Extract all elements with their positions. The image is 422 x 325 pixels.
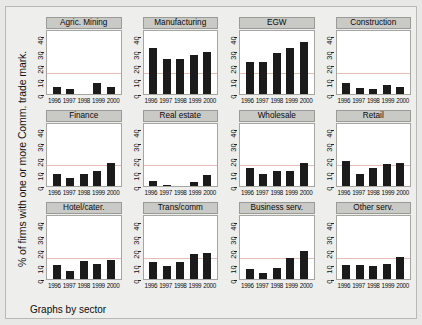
x-tick-label: 1996 [145,96,158,105]
panel-title: Manufacturing [143,17,219,29]
y-tick-label: 10 [230,172,237,180]
x-tick-label: 1997 [352,281,365,290]
bar [176,262,184,279]
bar [53,265,61,279]
bar [149,181,157,187]
plot-area [46,123,122,188]
x-tick-label: 1998 [174,188,187,197]
y-axis: 010203040 [221,30,239,95]
x-tick-label: 1997 [63,188,76,197]
bar-series [240,216,314,279]
x-axis: 19961997199819992000 [336,188,412,200]
y-tick-label: 30 [37,51,44,59]
y-tick-label: 20 [37,158,44,166]
bar [273,171,281,186]
y-tick-label: 10 [230,80,237,88]
y-tick-label: 30 [230,236,237,244]
y-tick-label: 30 [230,51,237,59]
panel-title: Business serv. [239,202,315,214]
y-tick-label: 0 [37,187,44,191]
x-axis: 19961997199819992000 [46,188,122,200]
x-tick-label: 2000 [300,96,313,105]
panel-grid: Agric. Mining010203040199619971998199920… [28,15,414,293]
x-tick-label: 1998 [270,281,283,290]
bar [286,171,294,186]
panel-finance: Finance01020304019961997199819992000 [28,108,125,201]
plot-area [239,215,315,280]
bar-series [337,124,411,187]
x-tick-label: 2000 [396,188,409,197]
panel-hotel-cater: Hotel/cater.0102030401996199719981999200… [28,200,125,293]
x-tick-label: 1997 [159,96,172,105]
x-tick-label: 1997 [63,96,76,105]
panel-other-serv: Other serv.01020304019961997199819992000 [318,200,415,293]
bar [246,168,254,186]
y-tick-label: 20 [133,65,140,73]
panel-title: Wholesale [239,110,315,122]
y-tick-label: 20 [133,158,140,166]
x-tick-label: 2000 [300,188,313,197]
y-tick-label: 10 [37,80,44,88]
bar-series [47,124,121,187]
x-tick-label: 1996 [241,281,254,290]
bar [369,89,377,93]
x-axis: 19961997199819992000 [239,281,315,293]
plot-area [336,30,412,95]
bar-series [337,216,411,279]
x-axis: 19961997199819992000 [239,188,315,200]
bar [190,182,198,186]
bar-series [337,31,411,94]
y-tick-label: 20 [230,251,237,259]
bar [190,55,198,94]
x-tick-label: 1996 [145,281,158,290]
x-axis: 19961997199819992000 [143,188,219,200]
y-tick-label: 30 [133,236,140,244]
y-axis: 010203040 [28,215,46,280]
bar [93,264,101,279]
x-tick-label: 1999 [285,281,298,290]
y-tick-label: 30 [230,144,237,152]
y-axis: 010203040 [318,30,336,95]
y-axis: 010203040 [125,30,143,95]
bar [246,62,254,94]
y-tick-label: 0 [37,94,44,98]
panel-title: Finance [46,110,122,122]
x-tick-label: 2000 [203,281,216,290]
plot-area [46,215,122,280]
bar-series [240,124,314,187]
x-tick-label: 1997 [352,96,365,105]
y-tick-label: 40 [326,222,333,230]
x-tick-label: 2000 [203,96,216,105]
x-tick-label: 2000 [300,281,313,290]
x-tick-label: 1997 [256,96,269,105]
bar [356,265,364,279]
x-tick-label: 2000 [107,96,120,105]
bar [396,163,404,187]
x-tick-label: 1999 [92,281,105,290]
panel-title: Retail [336,110,412,122]
y-tick-label: 10 [230,265,237,273]
y-tick-label: 10 [326,80,333,88]
chart-frame: % of firms with one or more Comm. trade … [5,6,417,319]
panel-manufacturing: Manufacturing010203040199619971998199920… [125,15,222,108]
x-tick-label: 2000 [203,188,216,197]
plot-area [336,123,412,188]
y-tick-label: 30 [326,236,333,244]
y-tick-label: 40 [326,129,333,137]
bar [203,253,211,279]
bar [369,168,377,186]
y-tick-label: 40 [230,129,237,137]
x-tick-label: 2000 [396,96,409,105]
panel-business-serv: Business serv.01020304019961997199819992… [221,200,318,293]
panel-title: Real estate [143,110,219,122]
x-tick-label: 1998 [270,188,283,197]
bar [66,89,74,93]
y-tick-label: 20 [37,251,44,259]
y-tick-label: 40 [326,37,333,45]
y-tick-label: 40 [230,222,237,230]
y-axis: 010203040 [125,215,143,280]
bar [383,164,391,186]
bar [273,53,281,93]
y-tick-label: 30 [133,51,140,59]
bar [259,174,267,187]
